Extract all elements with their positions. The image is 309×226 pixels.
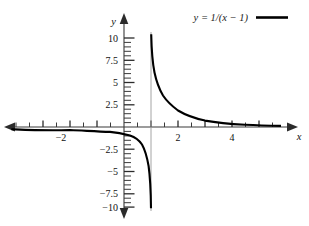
function-graph-figure: 10 7.5 5 2.5 −2.5 −5 −7.5 −10 −2 2 4 y x… [0, 0, 309, 226]
legend: y = 1/(x − 1) [193, 12, 288, 24]
y-axis-bottom-arrow-icon [120, 208, 129, 219]
x-axis-tick-labels: −2 2 4 [56, 132, 235, 143]
y-tick-label: −5 [107, 166, 118, 177]
y-axis-top-arrow-icon [120, 13, 129, 24]
y-axis-tick-labels: 10 7.5 5 2.5 −2.5 −5 −7.5 −10 [100, 33, 118, 213]
curve-left-branch [11, 129, 151, 208]
x-tick-label: −2 [56, 132, 67, 143]
y-tick-label: −2.5 [100, 144, 118, 155]
x-tick-label: 2 [176, 132, 181, 143]
x-axis-label: x [296, 131, 302, 142]
curve-right-branch [151, 34, 281, 126]
y-axis-ticks [124, 38, 135, 207]
plot-canvas: 10 7.5 5 2.5 −2.5 −5 −7.5 −10 −2 2 4 y x… [0, 0, 309, 226]
y-tick-label: −7.5 [100, 188, 118, 199]
y-tick-label: 5 [113, 77, 118, 88]
y-axis-label: y [110, 16, 116, 27]
legend-entry-label: y = 1/(x − 1) [193, 12, 249, 24]
y-tick-label: 10 [108, 33, 118, 44]
y-axis [120, 13, 129, 219]
x-tick-label: 4 [230, 132, 235, 143]
y-tick-label: −10 [102, 202, 118, 213]
y-tick-label: 2.5 [106, 99, 119, 110]
y-tick-label: 7.5 [106, 55, 119, 66]
